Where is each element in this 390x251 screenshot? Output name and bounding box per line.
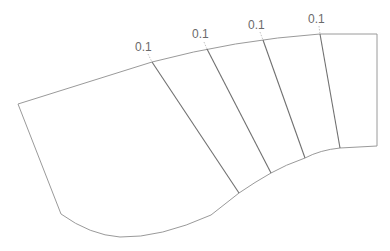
divider-line-4 — [320, 34, 340, 148]
divider-line-2 — [207, 49, 271, 173]
leader-line-3 — [260, 32, 263, 40]
region-outline — [18, 34, 377, 237]
leader-line-1 — [148, 54, 152, 62]
divider-label-2: 0.1 — [192, 27, 209, 41]
divider-line-1 — [152, 62, 239, 193]
leader-line-4 — [319, 26, 320, 34]
divider-label-1: 0.1 — [135, 40, 152, 54]
diagram-canvas: 0.1 0.1 0.1 0.1 — [0, 0, 390, 251]
divider-line-3 — [263, 40, 305, 158]
divider-label-3: 0.1 — [248, 18, 265, 32]
leader-line-2 — [204, 42, 207, 49]
divider-label-4: 0.1 — [308, 12, 325, 26]
